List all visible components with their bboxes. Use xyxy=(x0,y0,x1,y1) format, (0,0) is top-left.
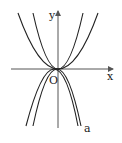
curve-label-a: a xyxy=(84,122,91,135)
origin-label: O xyxy=(49,74,58,87)
y-axis-label: y xyxy=(48,9,56,22)
parabola-diagram: y x O a xyxy=(0,0,122,143)
x-axis-label: x xyxy=(107,70,114,83)
